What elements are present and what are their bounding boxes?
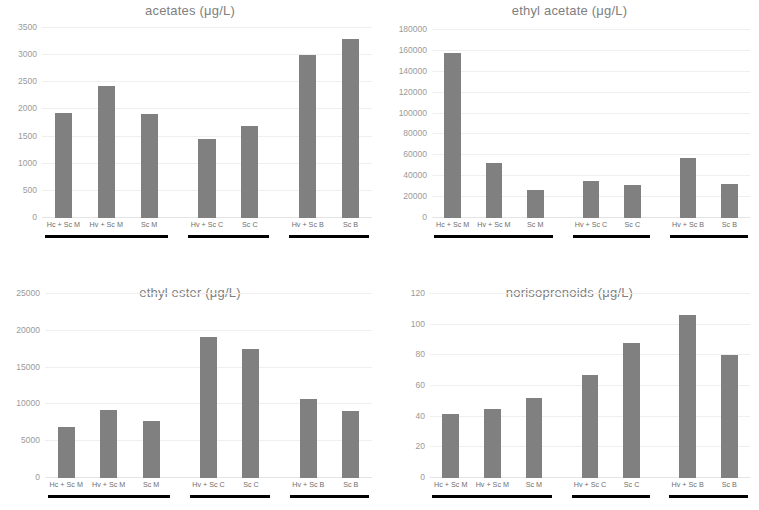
bar	[484, 409, 501, 478]
bar	[241, 126, 258, 218]
y-axis-tick-label: 1500	[18, 131, 42, 141]
bar	[198, 139, 215, 218]
bar	[143, 421, 160, 478]
y-axis-tick-label: 120	[411, 288, 430, 298]
y-axis-tick-label: 2500	[18, 76, 42, 86]
group-underline-c	[190, 495, 270, 498]
bar	[100, 410, 117, 478]
panel-ethyl-ester: ethyl ester (μg/L) 050001000015000200002…	[0, 255, 380, 510]
y-axis-tick-label: 0	[35, 472, 45, 482]
y-axis-tick-label: 120000	[399, 87, 432, 97]
group-underline-m	[48, 495, 170, 498]
bar	[444, 53, 461, 218]
bar	[55, 113, 72, 218]
bar	[300, 399, 317, 478]
bar	[721, 355, 738, 478]
panel-title-ethyl-acetate: ethyl acetate (μg/L)	[380, 3, 759, 18]
y-axis-tick-label: 100	[411, 319, 430, 329]
bar	[200, 337, 217, 478]
bar	[624, 185, 641, 218]
y-axis-tick-label: 20000	[403, 191, 432, 201]
y-axis-tick-label: 0	[422, 212, 432, 222]
group-underline-b	[669, 495, 747, 498]
group-underlines	[430, 478, 750, 500]
panel-norisoprenoids: norisoprenoids (μg/L) 020406080100120Hc …	[380, 255, 759, 510]
y-axis-tick-label: 40	[416, 411, 430, 421]
group-underline-b	[670, 235, 748, 238]
y-axis-tick-label: 3500	[18, 22, 42, 32]
group-underline-b	[290, 495, 370, 498]
bar	[342, 39, 359, 218]
y-axis-tick-label: 500	[23, 185, 42, 195]
y-axis-tick-label: 15000	[16, 362, 45, 372]
group-underline-b	[289, 235, 370, 238]
y-axis-tick-label: 80000	[403, 128, 432, 138]
bar	[583, 181, 600, 218]
y-axis-tick-label: 160000	[399, 45, 432, 55]
group-underline-m	[434, 235, 553, 238]
group-underline-c	[572, 495, 650, 498]
y-axis-tick-label: 20000	[16, 325, 45, 335]
y-axis-tick-label: 3000	[18, 49, 42, 59]
y-axis-tick-label: 0	[32, 212, 42, 222]
panel-acetates: acetates (μg/L) 050010001500200025003000…	[0, 0, 380, 255]
y-axis-tick-label: 140000	[399, 66, 432, 76]
group-underline-c	[188, 235, 269, 238]
y-axis-tick-label: 2000	[18, 103, 42, 113]
group-underlines	[45, 478, 372, 500]
y-axis-tick-label: 20	[416, 441, 430, 451]
bar	[98, 86, 115, 218]
y-axis-tick-label: 80	[416, 349, 430, 359]
bar	[242, 349, 259, 478]
y-axis-tick-label: 40000	[403, 170, 432, 180]
y-axis-tick-label: 10000	[16, 398, 45, 408]
panel-title-acetates: acetates (μg/L)	[0, 3, 380, 18]
y-axis-tick-label: 180000	[399, 24, 432, 34]
plot-area-ethyl-acetate: 0200004000060000800001000001200001400001…	[432, 30, 750, 218]
bar	[442, 414, 459, 478]
bar	[141, 114, 158, 218]
plot-area-ethyl-ester: 0500010000150002000025000Hc + Sc MHv + S…	[45, 294, 372, 478]
group-underline-m	[432, 495, 552, 498]
bars-container	[42, 28, 372, 218]
y-axis-tick-label: 0	[420, 472, 430, 482]
bar	[623, 343, 640, 478]
y-axis-tick-label: 1000	[18, 158, 42, 168]
plot-area-norisoprenoids: 020406080100120Hc + Sc MHv + Sc MSc MHv …	[430, 294, 750, 478]
y-axis-tick-label: 60	[416, 380, 430, 390]
panel-ethyl-acetate: ethyl acetate (μg/L) 0200004000060000800…	[380, 0, 759, 255]
group-underline-m	[45, 235, 168, 238]
bar	[679, 315, 696, 478]
bar	[721, 184, 738, 218]
bar	[582, 375, 599, 478]
bar	[58, 427, 75, 478]
bar	[527, 190, 544, 218]
y-axis-tick-label: 100000	[399, 108, 432, 118]
bar	[342, 411, 359, 478]
multi-panel-bar-chart-figure: acetates (μg/L) 050010001500200025003000…	[0, 0, 759, 510]
bar	[299, 55, 316, 218]
bar	[680, 158, 697, 218]
bar	[526, 398, 543, 478]
y-axis-tick-label: 60000	[403, 149, 432, 159]
group-underlines	[432, 218, 750, 240]
group-underlines	[42, 218, 372, 240]
bars-container	[45, 294, 372, 478]
group-underline-c	[573, 235, 651, 238]
y-axis-tick-label: 25000	[16, 288, 45, 298]
bars-container	[430, 294, 750, 478]
bars-container	[432, 30, 750, 218]
bar	[486, 163, 503, 218]
plot-area-acetates: 0500100015002000250030003500Hc + Sc MHv …	[42, 28, 372, 218]
y-axis-tick-label: 5000	[21, 435, 45, 445]
